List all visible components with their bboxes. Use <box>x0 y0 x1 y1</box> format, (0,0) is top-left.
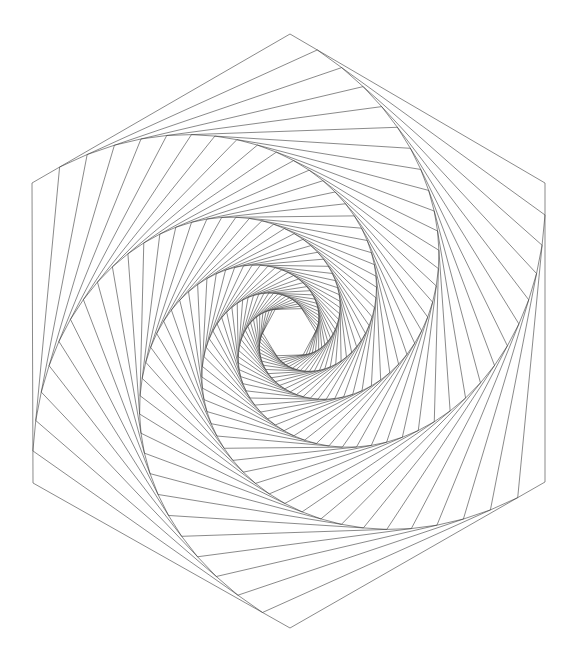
whirling-hexagon-spiral-svg <box>0 0 570 661</box>
figure-canvas <box>0 0 570 661</box>
background-rect <box>0 0 570 661</box>
